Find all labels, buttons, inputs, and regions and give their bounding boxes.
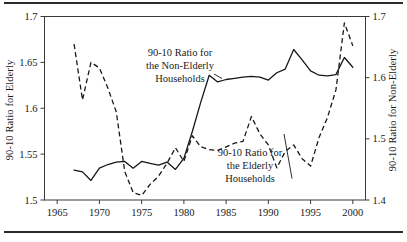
left-tick-label: 1.55 <box>19 149 37 160</box>
right-tick-label: 1.7 <box>373 11 386 22</box>
non-elderly-annotation: 90-10 Ratio forthe Non-ElderlyHouseholds <box>146 47 222 84</box>
right-tick-label: 1.5 <box>373 133 386 144</box>
left-tick-label: 1.5 <box>24 195 37 206</box>
left-axis-ticks: 1.51.551.61.651.7 <box>19 11 44 206</box>
annotation-line: the Non-Elderly <box>146 60 215 71</box>
x-tick-label: 1970 <box>89 207 110 218</box>
annotation-leader-line <box>214 74 222 79</box>
x-tick-label: 1980 <box>173 207 194 218</box>
annotation-line: 90-10 Ratio for <box>218 147 283 158</box>
left-axis-title: 90-10 Ratio for Elderly <box>4 59 15 160</box>
annotation-line: the Elderly <box>227 160 274 171</box>
x-tick-label: 1985 <box>216 207 237 218</box>
series-line-elderly <box>74 23 353 195</box>
right-tick-label: 1.4 <box>373 195 387 206</box>
x-tick-label: 1975 <box>131 207 152 218</box>
left-tick-label: 1.7 <box>24 11 37 22</box>
right-axis-title: 90-10 Ratio for Non-Elderly <box>387 48 398 171</box>
x-tick-label: 1990 <box>258 207 279 218</box>
left-tick-label: 1.6 <box>24 103 37 114</box>
right-tick-label: 1.6 <box>373 72 386 83</box>
line-chart: 90-10 Ratio for Elderly 90-10 Ratio for … <box>0 0 407 242</box>
bottom-rule <box>4 231 403 233</box>
left-tick-label: 1.65 <box>19 57 37 68</box>
annotation-leader-line <box>284 134 292 179</box>
annotation-line: Households <box>225 173 275 184</box>
x-tick-label: 1995 <box>300 207 321 218</box>
x-tick-label: 1965 <box>47 207 68 218</box>
x-axis-ticks: 19651970197519801985199019952000 <box>47 200 364 218</box>
elderly-annotation: 90-10 Ratio forthe ElderlyHouseholds <box>218 134 292 184</box>
annotation-line: 90-10 Ratio for <box>148 47 213 58</box>
plot-frame <box>45 17 366 201</box>
annotation-line: Households <box>155 73 205 84</box>
x-tick-label: 2000 <box>342 207 363 218</box>
right-axis-ticks: 1.41.51.61.7 <box>366 11 387 206</box>
series-layer <box>74 23 353 195</box>
figure-container: 90-10 Ratio for Elderly 90-10 Ratio for … <box>0 0 407 242</box>
top-rule <box>4 2 403 4</box>
